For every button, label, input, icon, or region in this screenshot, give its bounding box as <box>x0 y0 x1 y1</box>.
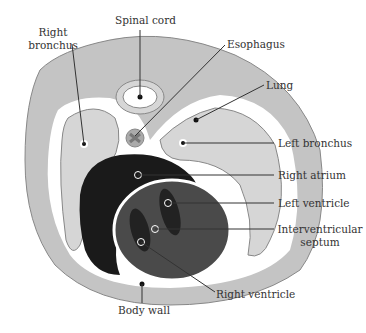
label-interventricular-line2: septum <box>275 236 365 249</box>
label-interventricular-line1: Interventricular <box>275 223 365 236</box>
label-body-wall: Body wall <box>118 304 170 317</box>
label-left-bronchus: Left bronchus <box>278 137 352 150</box>
label-right-bronchus-line2: bronchus <box>25 39 81 52</box>
label-right-atrium: Right atrium <box>278 169 346 182</box>
label-lung: Lung <box>266 79 293 92</box>
label-spinal-cord: Spinal cord <box>115 14 176 27</box>
label-interventricular-septum: Interventricular septum <box>275 223 365 249</box>
label-right-ventricle: Right ventricle <box>216 288 295 301</box>
label-left-ventricle: Left ventricle <box>278 197 350 210</box>
label-esophagus: Esophagus <box>227 38 285 51</box>
label-right-bronchus-line1: Right <box>25 26 81 39</box>
label-right-bronchus: Right bronchus <box>25 26 81 52</box>
